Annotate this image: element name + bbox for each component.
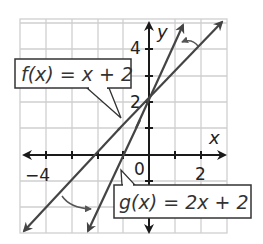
x-axis-label: x	[208, 127, 220, 148]
origin-label: 0	[134, 159, 145, 179]
y-axis-label: y	[156, 21, 168, 42]
f-label: f(x) = x + 2	[21, 63, 133, 85]
x-tick-label-2: 2	[195, 164, 206, 184]
f-callout: f(x) = x + 2	[15, 59, 133, 118]
y-tick-label-4: 4	[130, 38, 141, 58]
g-label: g(x) = 2x + 2	[119, 191, 249, 213]
rotation-arrow-top-icon	[182, 41, 198, 46]
x-tick-label-neg4: −4	[25, 165, 50, 185]
graph: x y −4 0 2 2 4 f(x) = x + 2 g(x) = 2x + …	[0, 0, 263, 244]
